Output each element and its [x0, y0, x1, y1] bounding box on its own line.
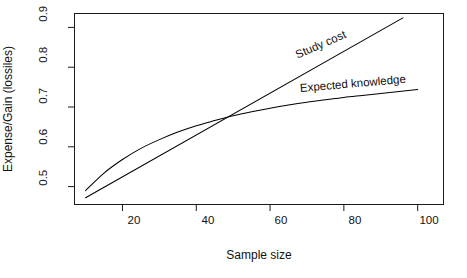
- plot-canvas: [0, 0, 467, 278]
- chart-figure: 0.5 0.6 0.7 0.8 0.9 20 40 60 80 100 Expe…: [0, 0, 467, 278]
- x-axis-title: Sample size: [199, 248, 319, 262]
- y-tick-label-1: 0.6: [38, 123, 50, 151]
- y-tick-label-0: 0.5: [38, 164, 50, 192]
- x-axis-ticks: [122, 205, 417, 212]
- y-axis-title: Expense/Gain (lossiles): [1, 29, 15, 189]
- x-tick-label-4: 100: [409, 215, 449, 227]
- plot-box-border: [75, 14, 444, 205]
- x-tick-label-1: 40: [188, 215, 228, 227]
- y-tick-label-2: 0.7: [38, 82, 50, 110]
- y-axis-ticks: [68, 27, 75, 186]
- y-tick-label-3: 0.8: [38, 41, 50, 69]
- y-tick-label-4: 0.9: [38, 0, 50, 28]
- x-tick-label-2: 60: [261, 215, 301, 227]
- series-line-study-cost: [86, 18, 403, 198]
- x-tick-label-0: 20: [114, 215, 154, 227]
- x-tick-label-3: 80: [335, 215, 375, 227]
- series-curve-expected-knowledge: [86, 90, 418, 191]
